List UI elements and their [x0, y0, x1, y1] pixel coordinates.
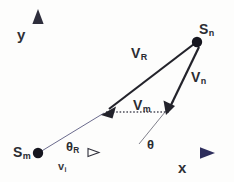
vector-label-vr: VR	[131, 46, 147, 60]
vector-label-vn: Vn	[191, 70, 206, 84]
angle-label-theta-r: θR	[66, 140, 79, 153]
point-label-sn: Sn	[199, 22, 214, 36]
x-axis	[38, 147, 215, 159]
vector-diagram-figure: y x Sn Sm VR Vn Vm vi θR θ	[0, 0, 234, 182]
x-axis-label: x	[178, 160, 186, 175]
y-axis	[32, 9, 43, 153]
point-dot-sn	[192, 37, 202, 47]
point-label-sm: Sm	[13, 145, 30, 159]
y-axis-label: y	[17, 27, 25, 42]
y-axis-arrowhead	[32, 9, 43, 24]
vector-label-vm: Vm	[133, 98, 150, 112]
angle-label-theta: θ	[147, 138, 154, 151]
vector-label-vi: vi	[58, 161, 66, 172]
point-dot-sm	[33, 148, 43, 158]
x-axis-arrowhead	[200, 147, 215, 159]
